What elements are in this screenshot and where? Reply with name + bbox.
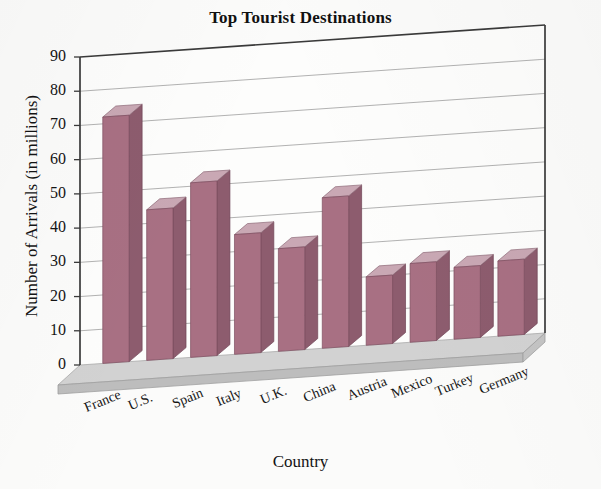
- y-tick-label-80: 80: [30, 82, 66, 98]
- bar-turkey[interactable]: [454, 255, 493, 340]
- bar-mexico[interactable]: [410, 251, 449, 343]
- bar-austria[interactable]: [366, 264, 405, 345]
- bar-front-face: [103, 115, 129, 363]
- bar-front-face: [278, 247, 304, 351]
- bar-front-face: [191, 181, 217, 357]
- y-tick-label-30: 30: [30, 253, 66, 269]
- y-tick-label-70: 70: [30, 116, 66, 132]
- bar-side-face: [173, 197, 186, 359]
- bar-side-face: [261, 222, 274, 353]
- bar-france[interactable]: [103, 104, 142, 363]
- bar-front-face: [147, 208, 173, 360]
- bar-side-face: [305, 236, 318, 350]
- bar-us[interactable]: [147, 197, 186, 360]
- bar-side-face: [480, 255, 493, 338]
- bar-front-face: [234, 233, 260, 355]
- bar-front-face: [322, 196, 348, 348]
- bar-side-face: [217, 170, 230, 356]
- chart-canvas: [0, 0, 601, 489]
- bar-front-face: [366, 275, 392, 345]
- bar-spain[interactable]: [191, 170, 230, 357]
- y-tick-label-20: 20: [30, 288, 66, 304]
- chart-container: Top Tourist Destinations Number of Arriv…: [0, 0, 601, 489]
- y-tick-label-0: 0: [30, 356, 66, 372]
- bar-uk[interactable]: [278, 236, 317, 351]
- y-tick-label-40: 40: [30, 219, 66, 235]
- y-tick-label-60: 60: [30, 151, 66, 167]
- y-tick-label-10: 10: [30, 322, 66, 338]
- bar-front-face: [454, 266, 480, 340]
- y-tick-label-50: 50: [30, 185, 66, 201]
- plot-area: [0, 0, 601, 489]
- bar-side-face: [524, 248, 537, 334]
- bar-germany[interactable]: [498, 248, 537, 336]
- bar-italy[interactable]: [234, 222, 273, 355]
- bar-front-face: [410, 262, 436, 343]
- y-tick-label-90: 90: [30, 48, 66, 64]
- bar-side-face: [349, 185, 362, 347]
- bar-front-face: [498, 259, 524, 336]
- bar-side-face: [129, 104, 142, 361]
- bar-side-face: [393, 264, 406, 343]
- bar-china[interactable]: [322, 185, 361, 348]
- bar-side-face: [436, 251, 449, 341]
